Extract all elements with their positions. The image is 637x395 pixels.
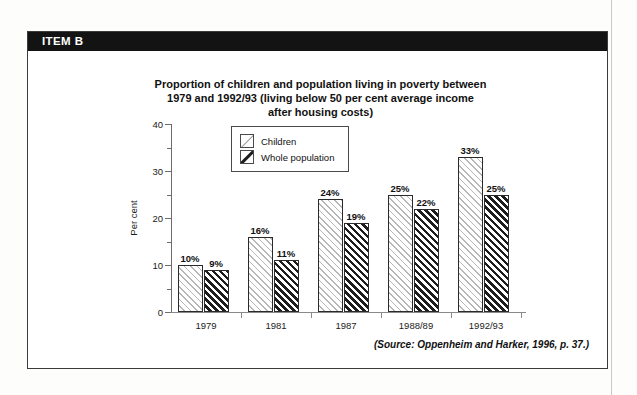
legend-swatch-whole-population-icon: [240, 150, 254, 164]
x-axis-category-label: 1988/89: [399, 320, 433, 331]
chart-title-line-3: after housing costs): [88, 105, 553, 119]
y-axis-tick-label: 10: [152, 260, 163, 271]
chart-title-line-2: 1979 and 1992/93 (living below 50 per ce…: [88, 91, 553, 105]
y-axis-tick-label: 40: [152, 119, 163, 130]
plot-area: Per cent 010203040 10%9%16%11%24%19%25%2…: [171, 124, 521, 312]
bar-value-label: 16%: [250, 225, 269, 236]
item-banner: ITEM B: [28, 32, 607, 51]
bar-value-label: 9%: [209, 258, 223, 269]
y-axis-tick: [165, 124, 171, 125]
bar-children: 16%: [248, 237, 273, 312]
y-axis-tick: [165, 312, 171, 313]
bar-value-label: 22%: [416, 197, 435, 208]
x-axis-category-label: 1987: [335, 320, 356, 331]
bar-value-label: 25%: [390, 183, 409, 194]
x-axis-tick: [241, 312, 242, 318]
x-axis-category-label: 1981: [265, 320, 286, 331]
x-axis-tick: [381, 312, 382, 318]
page-margin-rule: [611, 0, 612, 395]
y-axis-minor-tick: [167, 289, 171, 290]
x-axis-tick: [521, 312, 522, 318]
bar-whole-population: 19%: [344, 223, 369, 312]
y-axis-tick-label: 0: [158, 307, 163, 318]
x-axis-line: [171, 312, 526, 313]
chart-title-line-1: Proportion of children and population li…: [88, 77, 553, 91]
y-axis-title: Per cent: [128, 200, 139, 235]
source-note: (Source: Oppenheim and Harker, 1996, p. …: [374, 339, 589, 350]
bar-whole-population: 9%: [204, 270, 229, 312]
chart-legend: Children Whole population: [231, 126, 349, 172]
bar-children: 10%: [178, 265, 203, 312]
bar-value-label: 19%: [346, 211, 365, 222]
bar-value-label: 11%: [277, 248, 296, 259]
bar-children: 24%: [318, 199, 343, 312]
bar-children: 25%: [388, 195, 413, 313]
y-axis-minor-tick: [167, 148, 171, 149]
x-axis-tick: [451, 312, 452, 318]
y-axis-minor-tick: [167, 242, 171, 243]
x-axis-category-label: 1992/93: [469, 320, 503, 331]
legend-swatch-children-icon: [240, 134, 254, 148]
bar-whole-population: 25%: [484, 195, 509, 313]
y-axis-line: [171, 124, 172, 312]
legend-item-whole-population: Whole population: [240, 149, 334, 165]
y-axis-tick-label: 30: [152, 166, 163, 177]
x-axis-category-label: 1979: [195, 320, 216, 331]
y-axis-tick-label: 20: [152, 213, 163, 224]
item-banner-label: ITEM B: [42, 35, 83, 47]
bar-chart: Per cent 010203040 10%9%16%11%24%19%25%2…: [123, 120, 543, 350]
bar-value-label: 24%: [320, 187, 339, 198]
legend-label-children: Children: [261, 136, 296, 147]
item-b-box: ITEM B Proportion of children and popula…: [27, 31, 608, 369]
y-axis-minor-tick: [167, 195, 171, 196]
bar-value-label: 25%: [486, 183, 505, 194]
chart-title: Proportion of children and population li…: [88, 77, 553, 119]
y-axis-tick: [165, 265, 171, 266]
bar-value-label: 33%: [460, 145, 479, 156]
x-axis-tick: [311, 312, 312, 318]
bar-whole-population: 22%: [414, 209, 439, 312]
legend-item-children: Children: [240, 133, 334, 149]
y-axis-tick: [165, 218, 171, 219]
bar-value-label: 10%: [180, 253, 199, 264]
y-axis-tick: [165, 171, 171, 172]
legend-label-whole-population: Whole population: [261, 152, 334, 163]
bar-whole-population: 11%: [274, 260, 299, 312]
bar-children: 33%: [458, 157, 483, 312]
